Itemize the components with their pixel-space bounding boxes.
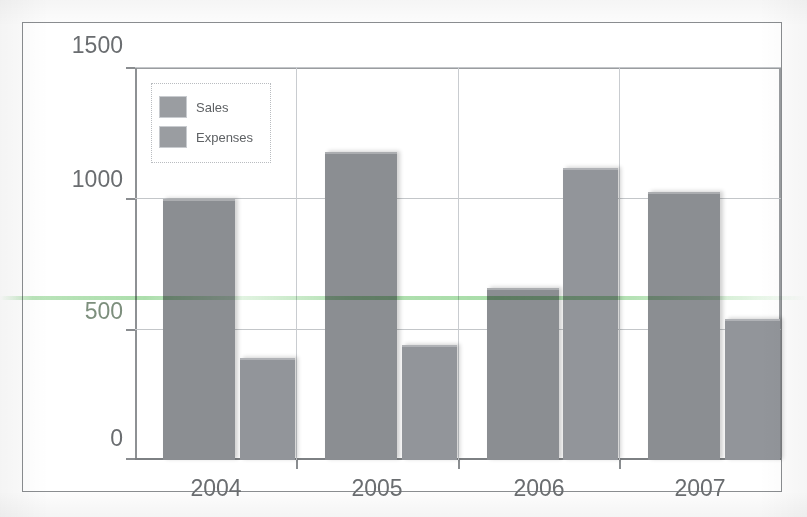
y-tick-label-1500: 1500 [72,32,123,59]
bar-expenses-2005[interactable] [402,345,457,460]
x-tick-label-2005: 2005 [351,475,402,502]
bar-sales-2006[interactable] [487,288,559,460]
x-tick-label-2006: 2006 [513,475,564,502]
bar-expenses-2006[interactable] [563,168,618,460]
y-tickmark-1000 [126,198,135,200]
bar-cap [240,358,295,360]
x-tickmark-2 [458,460,460,469]
y-tick-label-0: 0 [110,425,123,452]
y-tick-label-500: 500 [85,298,123,325]
legend-label-sales: Sales [196,100,229,115]
bar-sales-2005[interactable] [325,152,397,460]
y-tickmark-0 [126,458,135,460]
legend-item-sales[interactable]: Sales [159,92,263,122]
y-tickmark-1500 [126,67,135,69]
x-tickmark-3 [619,460,621,469]
legend-label-expenses: Expenses [196,130,253,145]
bar-cap [648,192,720,194]
bar-cap [487,288,559,290]
bar-cap [563,168,618,170]
bar-expenses-2004[interactable] [240,358,295,460]
x-tick-label-2004: 2004 [190,475,241,502]
x-tick-label-2007: 2007 [674,475,725,502]
bar-sales-2004[interactable] [163,199,235,460]
bar-cap [725,319,780,321]
y-tick-label-1000: 1000 [72,166,123,193]
bar-cap [163,199,235,201]
chart-frame: 1500 1000 500 0 [22,22,782,492]
y-axis-labels: 1500 1000 500 0 [23,23,135,491]
category-separator-1 [296,67,297,460]
legend-swatch-sales-icon [159,96,187,118]
x-axis-labels: 2004 2005 2006 2007 [135,475,781,515]
legend-swatch-expenses-icon [159,126,187,148]
x-tickmark-1 [296,460,298,469]
category-separator-2 [458,67,459,460]
y-axis-line [135,67,137,460]
bar-expenses-2007[interactable] [725,319,780,460]
bar-cap [325,152,397,154]
chart-legend[interactable]: Sales Expenses [151,83,271,163]
category-separator-3 [619,67,620,460]
scanned-page: 1500 1000 500 0 [0,0,807,517]
bar-sales-2007[interactable] [648,192,720,460]
y-tickmark-500 [126,329,135,331]
bar-cap [402,345,457,347]
legend-item-expenses[interactable]: Expenses [159,122,263,152]
